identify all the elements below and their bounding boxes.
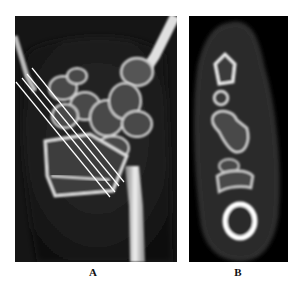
panel-label-a: A bbox=[83, 266, 103, 278]
ct-panel-b bbox=[189, 16, 288, 262]
axial-ct-image bbox=[189, 16, 288, 262]
panel-label-b: B bbox=[228, 266, 248, 278]
coronal-ct-image bbox=[15, 16, 177, 262]
ct-panel-a bbox=[15, 16, 177, 262]
